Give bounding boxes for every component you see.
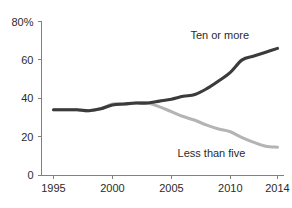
series-annotation-labels: Ten or moreLess than five	[178, 29, 250, 159]
x-axis-label-2010: 2010	[218, 182, 242, 194]
chart-canvas: 020406080% 19952000200520102014 Ten or m…	[0, 0, 292, 208]
series-label-ten-or-more: Ten or more	[190, 29, 249, 41]
line-chart-figure: 020406080% 19952000200520102014 Ten or m…	[0, 0, 292, 208]
series-line-ten-or-more	[54, 48, 278, 110]
x-axis-label-1995: 1995	[41, 182, 65, 194]
data-series-group	[54, 48, 278, 147]
series-label-less-than-five: Less than five	[178, 147, 246, 159]
x-axis-tick-labels: 19952000200520102014	[41, 182, 289, 194]
y-axis-tick-labels: 020406080%	[11, 16, 33, 182]
y-axis-label-20: 20	[21, 131, 33, 143]
x-axis-label-2000: 2000	[100, 182, 124, 194]
x-axis-label-2005: 2005	[159, 182, 183, 194]
y-axis-label-40: 40	[21, 92, 33, 104]
y-axis-label-80: 80%	[11, 16, 33, 28]
y-axis-label-60: 60	[21, 54, 33, 66]
y-axis-label-0: 0	[27, 169, 33, 181]
x-axis-label-2014: 2014	[265, 182, 289, 194]
